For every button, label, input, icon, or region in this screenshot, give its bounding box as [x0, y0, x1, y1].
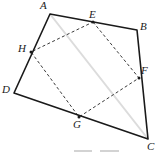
vertex-label-d: D [2, 84, 10, 95]
vertex-label-e: E [89, 9, 96, 20]
midpoint-dot-f [138, 77, 141, 80]
diagonal-segment-ac [50, 14, 148, 139]
geometry-figure: A B C D E F G H [0, 0, 163, 157]
vertex-label-b: B [140, 21, 147, 32]
midpoint-dot-e [92, 21, 95, 24]
vertex-label-f: F [141, 65, 148, 76]
vertex-label-c: C [147, 141, 154, 152]
vertex-label-a: A [40, 0, 47, 11]
vertex-label-h: H [18, 43, 26, 54]
geometry-canvas [0, 0, 163, 157]
dashed-quadrilateral-efgh [31, 22, 139, 117]
outer-quadrilateral-abcd [14, 14, 148, 139]
midpoint-dot-h [30, 51, 33, 54]
vertex-label-g: G [73, 119, 81, 130]
